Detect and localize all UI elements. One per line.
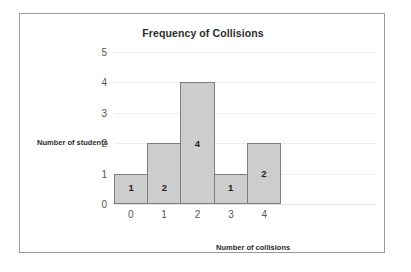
x-tick-label-3: 3: [214, 209, 247, 220]
x-axis-title: Number of collisions: [216, 243, 290, 252]
y-tick-label-0: 0: [101, 199, 107, 210]
bar-value-label-4: 2: [248, 168, 280, 179]
bar-value-label-3: 1: [215, 182, 247, 193]
bar-value-label-0: 1: [115, 182, 147, 193]
x-tick-label-2: 2: [181, 209, 214, 220]
bar-0[interactable]: 1: [114, 174, 148, 204]
chart-title: Frequency of Collisions: [20, 27, 386, 39]
y-tick-label-2: 2: [101, 138, 107, 149]
bar-3[interactable]: 1: [214, 174, 248, 204]
bar-series: 1 2 4 1 2: [114, 52, 281, 204]
plot-area: 5 4 3 2 1 0 1 2 4 1: [114, 52, 376, 204]
bar-4[interactable]: 2: [247, 143, 281, 204]
x-tick-label-4: 4: [248, 209, 281, 220]
bar-1[interactable]: 2: [147, 143, 181, 204]
y-axis-title: Number of students: [37, 138, 108, 147]
gridline-0: 0: [114, 204, 376, 205]
bar-value-label-1: 2: [148, 182, 180, 193]
bar-2[interactable]: 4: [180, 82, 214, 204]
x-axis-tick-labels: 0 1 2 3 4: [114, 209, 281, 220]
y-tick-label-3: 3: [101, 107, 107, 118]
x-tick-label-1: 1: [147, 209, 180, 220]
chart-frame: Frequency of Collisions Number of studen…: [19, 13, 385, 253]
bar-value-label-2: 4: [181, 138, 213, 149]
x-tick-label-0: 0: [114, 209, 147, 220]
y-tick-label-1: 1: [101, 168, 107, 179]
y-tick-label-5: 5: [101, 47, 107, 58]
y-tick-label-4: 4: [101, 77, 107, 88]
